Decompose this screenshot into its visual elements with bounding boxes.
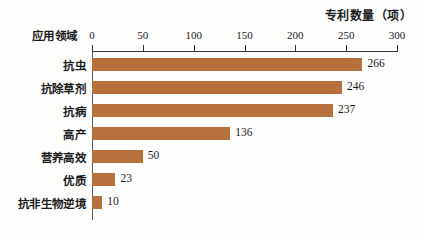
bar [92, 104, 333, 117]
tick-mark [92, 45, 93, 52]
category-label: 优质 [63, 172, 86, 188]
category-label: 抗除草剂 [41, 80, 86, 96]
chart-title: 专利数量（项） [325, 6, 413, 24]
tick-label: 100 [185, 29, 202, 41]
bar-value-label: 10 [107, 195, 119, 207]
bar-row: 抗非生物逆境10 [92, 196, 397, 209]
bar [92, 81, 342, 94]
category-label: 高产 [63, 126, 86, 142]
category-label: 抗虫 [63, 57, 86, 73]
plot-area: 抗虫266抗除草剂246抗病237高产136营养高效50优质23抗非生物逆境10 [92, 52, 397, 220]
tick-label: 200 [287, 29, 304, 41]
bar-chart: 专利数量（项） 应用领域 050100150200250300 抗虫266抗除草… [0, 0, 424, 240]
bar [92, 150, 143, 163]
y-axis-label: 应用领域 [32, 27, 78, 43]
bar-row: 营养高效50 [92, 150, 397, 163]
tick-label: 250 [338, 29, 355, 41]
bar-row: 优质23 [92, 173, 397, 186]
tick-label: 50 [137, 29, 148, 41]
tick-label: 0 [89, 29, 95, 41]
category-label: 抗病 [63, 103, 86, 119]
tick-mark [245, 45, 246, 52]
tick-label: 150 [236, 29, 253, 41]
bar-row: 抗除草剂246 [92, 81, 397, 94]
bar-row: 抗病237 [92, 104, 397, 117]
bar-value-label: 50 [148, 149, 160, 161]
tick-mark [346, 45, 347, 52]
bar-row: 高产136 [92, 127, 397, 140]
tick-mark [397, 45, 398, 52]
bar-row: 抗虫266 [92, 58, 397, 71]
tick-mark [295, 45, 296, 52]
bar-value-label: 266 [367, 57, 384, 69]
tick-mark [194, 45, 195, 52]
bar [92, 58, 362, 71]
bar [92, 127, 230, 140]
bar-value-label: 237 [338, 103, 355, 115]
bar-value-label: 246 [347, 80, 364, 92]
tick-label: 300 [389, 29, 406, 41]
bar [92, 196, 102, 209]
category-label: 抗非生物逆境 [18, 195, 86, 211]
bar [92, 173, 115, 186]
category-label: 营养高效 [41, 149, 86, 165]
bar-value-label: 136 [235, 126, 252, 138]
tick-mark [143, 45, 144, 52]
bar-value-label: 23 [120, 172, 132, 184]
